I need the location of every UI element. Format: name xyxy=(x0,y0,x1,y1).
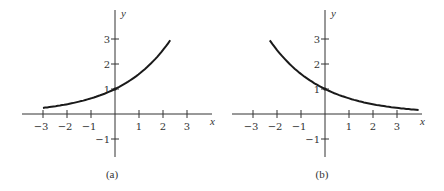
x-tick-label: 1 xyxy=(136,121,142,132)
y-tick-label: 2 xyxy=(104,59,110,70)
x-tick-label: −1 xyxy=(292,121,307,132)
chart-figure: −3−2−1123−1123xy(a) −3−2−1123−1123xy(b) xyxy=(0,0,444,191)
y-tick-label: 3 xyxy=(104,34,110,45)
panel-caption: (b) xyxy=(316,168,329,181)
x-axis-label: x xyxy=(419,115,425,127)
x-tick-label: 3 xyxy=(394,121,400,132)
exponential-curve xyxy=(43,40,170,108)
x-tick-label: 3 xyxy=(184,121,190,132)
y-tick-label: −1 xyxy=(305,134,320,145)
x-tick-label: −1 xyxy=(82,121,97,132)
y-axis-label: y xyxy=(330,7,336,19)
y-axis-label: y xyxy=(120,7,126,19)
x-tick-label: −2 xyxy=(58,121,73,132)
panel-a: −3−2−1123−1123xy(a) xyxy=(22,7,215,181)
x-axis-label: x xyxy=(209,115,215,127)
x-tick-label: 2 xyxy=(160,121,166,132)
intercept-point xyxy=(323,87,326,90)
y-tick-label: −1 xyxy=(95,134,110,145)
exponential-curve xyxy=(270,40,419,110)
x-tick-label: 1 xyxy=(346,121,352,132)
panel-caption: (a) xyxy=(106,168,119,181)
intercept-point xyxy=(113,87,116,90)
panel-b: −3−2−1123−1123xy(b) xyxy=(232,7,425,181)
x-tick-label: 2 xyxy=(370,121,376,132)
x-tick-label: −3 xyxy=(244,121,259,132)
x-tick-label: −2 xyxy=(268,121,283,132)
x-tick-label: −3 xyxy=(34,121,49,132)
y-tick-label: 3 xyxy=(314,34,320,45)
y-tick-label: 2 xyxy=(314,59,320,70)
